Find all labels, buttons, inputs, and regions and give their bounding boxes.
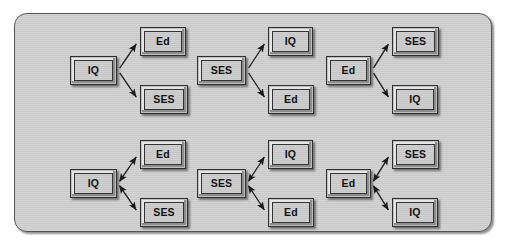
bevel-shadow-right xyxy=(182,142,184,167)
node-label: Ed xyxy=(342,178,356,189)
node-inner-panel: SES xyxy=(201,60,242,81)
node-box-ses[interactable]: SES xyxy=(140,85,188,114)
node-box-ses[interactable]: SES xyxy=(392,140,439,169)
bevel-shadow-bottom xyxy=(72,81,115,83)
node-box-ses[interactable]: SES xyxy=(197,169,246,198)
node-box-ed[interactable]: Ed xyxy=(268,198,314,227)
node-box-ed[interactable]: Ed xyxy=(140,140,186,169)
bevel-shadow-bottom xyxy=(270,52,311,54)
bevel-shadow-right xyxy=(242,171,244,196)
node-label: IQ xyxy=(409,94,421,105)
bevel-shadow-right xyxy=(309,142,311,167)
bevel-shadow-bottom xyxy=(142,223,186,225)
node-box-iq[interactable]: IQ xyxy=(70,169,117,198)
node-label: Ed xyxy=(156,149,170,160)
bevel-shadow-bottom xyxy=(270,110,312,112)
node-inner-panel: Ed xyxy=(272,202,310,223)
bevel-shadow-right xyxy=(113,58,115,83)
bevel-shadow-bottom xyxy=(394,223,436,225)
bevel-shadow-right xyxy=(435,142,437,167)
node-box-iq[interactable]: IQ xyxy=(268,140,313,169)
node-box-ed[interactable]: Ed xyxy=(140,27,186,56)
bevel-shadow-right xyxy=(309,29,311,54)
bevel-shadow-bottom xyxy=(328,81,369,83)
node-inner-panel: Ed xyxy=(144,144,182,165)
bevel-shadow-bottom xyxy=(142,52,184,54)
node-inner-panel: IQ xyxy=(74,173,113,194)
node-label: IQ xyxy=(88,65,100,76)
bevel-shadow-bottom xyxy=(270,165,311,167)
bevel-shadow-right xyxy=(184,87,186,112)
node-inner-panel: IQ xyxy=(74,60,113,81)
bevel-shadow-bottom xyxy=(72,194,115,196)
node-label: SES xyxy=(211,178,233,189)
node-label: SES xyxy=(405,36,427,47)
bevel-shadow-bottom xyxy=(199,81,244,83)
bevel-shadow-bottom xyxy=(394,165,437,167)
node-label: SES xyxy=(405,149,427,160)
node-label: IQ xyxy=(409,207,421,218)
bevel-shadow-right xyxy=(242,58,244,83)
node-label: SES xyxy=(211,65,233,76)
node-inner-panel: IQ xyxy=(396,202,434,223)
node-inner-panel: Ed xyxy=(330,60,367,81)
node-label: Ed xyxy=(156,36,170,47)
bevel-shadow-right xyxy=(310,200,312,225)
node-label: Ed xyxy=(284,207,298,218)
node-label: IQ xyxy=(88,178,100,189)
node-inner-panel: SES xyxy=(396,31,435,52)
node-inner-panel: SES xyxy=(144,202,184,223)
node-inner-panel: IQ xyxy=(272,144,309,165)
node-inner-panel: IQ xyxy=(396,89,434,110)
bevel-shadow-bottom xyxy=(142,110,186,112)
bevel-shadow-right xyxy=(113,171,115,196)
node-inner-panel: Ed xyxy=(272,89,310,110)
node-inner-panel: Ed xyxy=(144,31,182,52)
bevel-shadow-right xyxy=(367,58,369,83)
node-box-iq[interactable]: IQ xyxy=(268,27,313,56)
bevel-shadow-bottom xyxy=(328,194,369,196)
bevel-shadow-right xyxy=(434,87,436,112)
node-inner-panel: SES xyxy=(144,89,184,110)
bevel-shadow-bottom xyxy=(142,165,184,167)
node-label: SES xyxy=(153,94,175,105)
bevel-shadow-right xyxy=(182,29,184,54)
bevel-shadow-right xyxy=(435,29,437,54)
node-inner-panel: Ed xyxy=(330,173,367,194)
diagram-figure: IQEdSESSESIQEdEdSESIQIQEdSESSESIQEdEdSES… xyxy=(0,0,511,249)
bevel-shadow-bottom xyxy=(394,110,436,112)
bevel-shadow-right xyxy=(310,87,312,112)
node-inner-panel: SES xyxy=(396,144,435,165)
node-box-iq[interactable]: IQ xyxy=(392,198,438,227)
node-label: IQ xyxy=(285,149,297,160)
bevel-shadow-bottom xyxy=(270,223,312,225)
bevel-shadow-bottom xyxy=(394,52,437,54)
node-box-ses[interactable]: SES xyxy=(140,198,188,227)
node-box-ses[interactable]: SES xyxy=(392,27,439,56)
node-box-iq[interactable]: IQ xyxy=(392,85,438,114)
node-inner-panel: SES xyxy=(201,173,242,194)
bevel-shadow-bottom xyxy=(199,194,244,196)
node-inner-panel: IQ xyxy=(272,31,309,52)
node-label: Ed xyxy=(284,94,298,105)
node-box-ses[interactable]: SES xyxy=(197,56,246,85)
node-label: SES xyxy=(153,207,175,218)
node-label: Ed xyxy=(342,65,356,76)
node-box-ed[interactable]: Ed xyxy=(326,169,371,198)
bevel-shadow-right xyxy=(367,171,369,196)
node-label: IQ xyxy=(285,36,297,47)
node-box-iq[interactable]: IQ xyxy=(70,56,117,85)
node-box-ed[interactable]: Ed xyxy=(326,56,371,85)
bevel-shadow-right xyxy=(184,200,186,225)
bevel-shadow-right xyxy=(434,200,436,225)
node-box-ed[interactable]: Ed xyxy=(268,85,314,114)
